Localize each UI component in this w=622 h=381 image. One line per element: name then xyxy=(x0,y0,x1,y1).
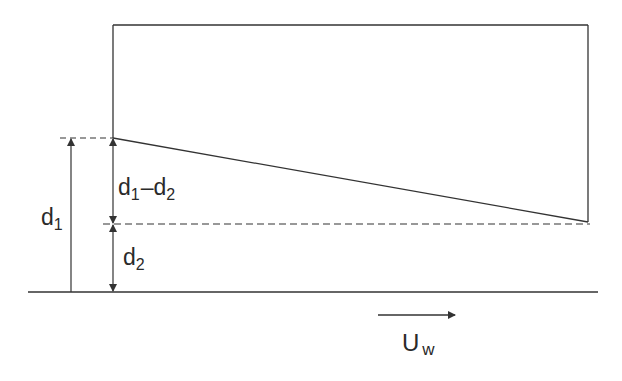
box-outline xyxy=(113,25,588,222)
label-d1: d1 xyxy=(41,204,63,233)
label-velocity: Uw xyxy=(402,329,435,359)
sloped-surface-line xyxy=(113,138,588,222)
label-d2: d2 xyxy=(123,244,145,273)
label-d1-minus-d2: d1–d2 xyxy=(118,174,175,203)
diagram-canvas: d1 d1–d2 d2 Uw xyxy=(0,0,622,381)
